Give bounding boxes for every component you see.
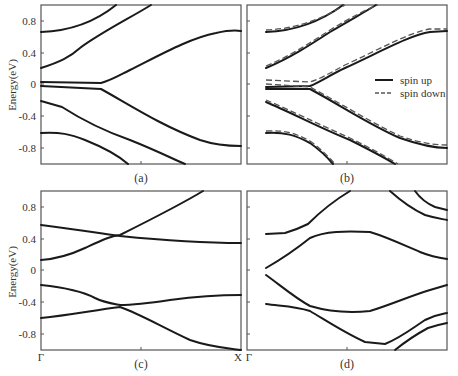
panel-d-bands (266, 191, 447, 350)
y-axis-label-c: Energy(eV) (6, 246, 19, 298)
xtick-gamma-d: Γ (246, 351, 252, 363)
band-structure-figure: 0.8 0.4 0 -0.4 -0.8 0.8 0.4 0 -0.4 -0.8 … (0, 0, 458, 376)
ytick-label: -0.8 (19, 142, 37, 154)
y-axis-label-a: Energy(eV) (6, 59, 19, 111)
ytick-label: -0.4 (19, 110, 37, 122)
panel-a-caption: (a) (134, 171, 147, 185)
ytick-label: 0 (31, 78, 37, 90)
ytick-label: 0.8 (22, 201, 36, 213)
ytick-label: 0.8 (22, 15, 36, 27)
panel-c-yticks (41, 207, 141, 350)
panel-a-frame (41, 5, 241, 164)
ytick-label: -0.8 (19, 328, 37, 340)
ytick-label: 0 (31, 264, 37, 276)
ytick-label: 0.4 (22, 233, 36, 245)
panel-b-yticks (247, 21, 347, 164)
panel-d-caption: (d) (340, 357, 354, 371)
ytick-label: 0.4 (22, 47, 36, 59)
panel-c-ytick-labels: 0.8 0.4 0 -0.4 -0.8 (19, 201, 37, 340)
legend: spin up spin down (375, 74, 446, 99)
panel-b-caption: (b) (340, 171, 354, 185)
panel-c-caption: (c) (134, 357, 147, 371)
xtick-gamma-c: Γ (38, 351, 44, 363)
panel-c-bands (41, 191, 241, 350)
panel-a-ytick-labels: 0.8 0.4 0 -0.4 -0.8 (19, 15, 37, 154)
legend-spin-down: spin down (400, 87, 446, 99)
xtick-x-c: X (234, 351, 242, 363)
legend-spin-up: spin up (400, 74, 433, 86)
panel-c-frame (41, 191, 241, 350)
panel-a-bands (41, 5, 241, 164)
ytick-label: -0.4 (19, 296, 37, 308)
